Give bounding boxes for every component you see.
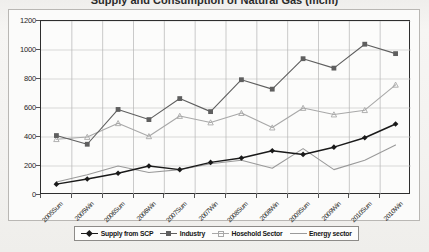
x-axis-tick (194, 194, 195, 198)
legend-item-label: Supply from SCP (101, 230, 154, 237)
data-point-marker (84, 176, 90, 182)
y-axis-tick-label: 1000 (20, 45, 36, 54)
data-point-marker (116, 107, 121, 112)
y-axis-tick (36, 136, 40, 137)
x-axis-tick-label: 2005Win (73, 200, 95, 222)
x-axis-tick-label: 2008Sum (226, 200, 249, 223)
chart-frame: 020040060080010001200 2005Sum2005Win2006… (8, 9, 420, 221)
data-point-marker (301, 56, 306, 61)
data-point-marker (147, 117, 152, 122)
data-point-marker (393, 121, 399, 127)
data-point-marker (239, 77, 244, 82)
chart-title: Supply and Consumption of Natural Gas (m… (0, 0, 429, 7)
chart-canvas (41, 21, 411, 195)
legend-swatch-icon (160, 230, 177, 237)
chart-title-text: Supply and Consumption of Natural Gas (m… (91, 0, 339, 6)
y-axis-tick-label: 400 (24, 132, 36, 141)
x-axis-tick (318, 194, 319, 198)
legend-swatch-icon (212, 230, 229, 237)
x-axis-tick (379, 194, 380, 198)
x-axis-tick-label: 2010Sum (349, 200, 372, 223)
x-axis-tick (256, 194, 257, 198)
legend-item-label: Industry (180, 230, 205, 237)
legend-item[interactable]: Energy sector (290, 230, 352, 237)
data-point-marker (362, 42, 367, 47)
y-axis-tick (36, 49, 40, 50)
y-axis-tick-label: 800 (24, 74, 36, 83)
x-axis-tick-label: 2009Win (320, 200, 342, 222)
x-axis-tick-label: 2006Win (135, 200, 157, 222)
legend-item[interactable]: Hosehold Sector (212, 230, 283, 237)
x-axis-tick-label: 2006Sum (103, 200, 126, 223)
data-point-marker (270, 87, 275, 92)
legend-item[interactable]: Supply from SCP (81, 230, 153, 237)
data-point-marker (54, 133, 59, 138)
data-point-marker (362, 135, 368, 141)
data-point-marker (177, 167, 183, 173)
y-axis-tick-label: 600 (24, 103, 36, 112)
chart-legend: Supply from SCPIndustryHosehold SectorEn… (74, 226, 359, 241)
data-point-marker (54, 181, 60, 187)
data-point-marker (332, 66, 337, 71)
x-axis-tick (71, 194, 72, 198)
x-axis-tick (40, 194, 41, 198)
data-point-marker (269, 148, 275, 154)
data-point-marker (208, 109, 213, 114)
data-point-marker (146, 163, 152, 169)
legend-swatch-icon (290, 230, 307, 237)
data-point-marker (393, 51, 398, 56)
x-axis-tick (348, 194, 349, 198)
y-axis-tick-label: 1200 (20, 16, 36, 25)
x-axis-tick-label: 2007Win (197, 200, 219, 222)
x-axis-tick-label: 2008Win (258, 200, 280, 222)
y-axis-tick (36, 20, 40, 21)
data-point-marker (331, 144, 337, 150)
x-axis-tick (287, 194, 288, 198)
y-axis-tick-label: 200 (24, 161, 36, 170)
data-point-marker (85, 142, 90, 147)
x-axis-tick (102, 194, 103, 198)
data-point-marker (177, 96, 182, 101)
x-axis-tick-label: 2009Sum (288, 200, 311, 223)
data-point-marker (115, 170, 121, 176)
x-axis-tick (163, 194, 164, 198)
data-point-marker (300, 152, 306, 158)
x-axis-tick-label: 2007Sum (164, 200, 187, 223)
legend-item-label: Energy sector (309, 230, 352, 237)
y-axis-tick (36, 107, 40, 108)
plot-area-wrapper: 020040060080010001200 2005Sum2005Win2006… (40, 20, 410, 194)
legend-item[interactable]: Industry (160, 230, 205, 237)
legend-swatch-icon (81, 230, 98, 237)
legend-item-label: Hosehold Sector (231, 230, 282, 237)
y-axis-tick (36, 165, 40, 166)
y-axis-tick (36, 78, 40, 79)
x-axis-tick-label: 2010Win (382, 200, 404, 222)
x-axis-tick-label: 2005Sum (41, 200, 64, 223)
x-axis-tick (133, 194, 134, 198)
plot-area (40, 20, 410, 194)
x-axis-tick (225, 194, 226, 198)
